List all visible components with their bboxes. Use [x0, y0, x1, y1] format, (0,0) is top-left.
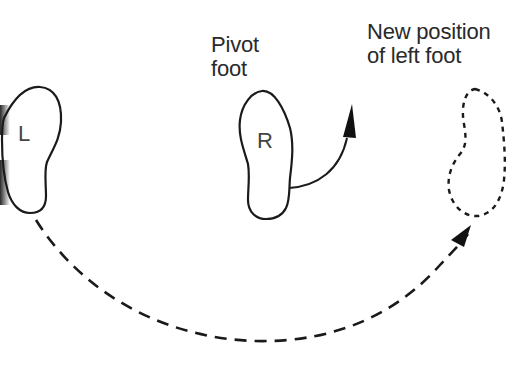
right-foot-letter: R: [257, 128, 273, 154]
pivot-arrow: [289, 138, 347, 188]
new-position-line1: New position: [367, 20, 491, 44]
new-left-foot-outline: [449, 89, 505, 216]
swing-arc-arrow: [36, 220, 468, 341]
new-position-label: New position of left foot: [367, 20, 491, 68]
pivot-arrowhead-icon: [343, 104, 356, 138]
left-foot-letter: L: [18, 121, 30, 147]
new-position-line2: of left foot: [367, 44, 491, 68]
pivot-foot-label: Pivot foot: [211, 33, 259, 81]
pivot-label-line1: Pivot: [211, 33, 259, 57]
left-foot-outline: [2, 87, 61, 213]
right-foot-outline: [240, 91, 293, 219]
pivot-label-line2: foot: [211, 57, 259, 81]
